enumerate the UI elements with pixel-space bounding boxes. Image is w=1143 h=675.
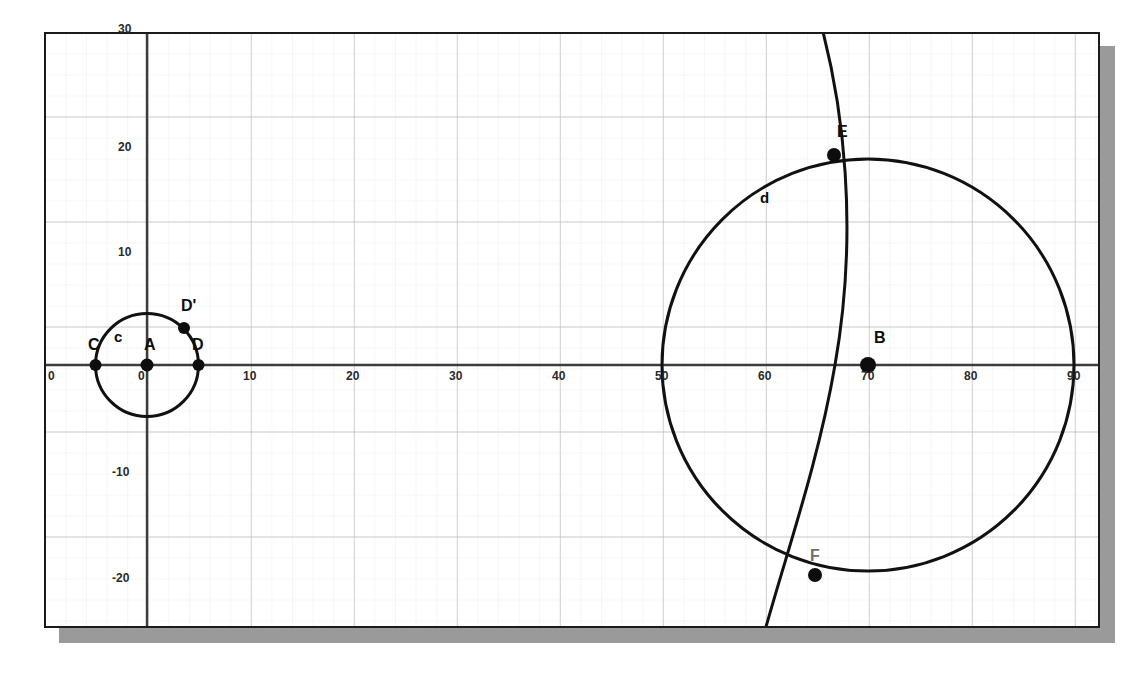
geometry-label-c[interactable]: c xyxy=(114,329,122,344)
y-tick-label-3: -10 xyxy=(112,466,129,478)
x-tick-label-9: 80 xyxy=(964,370,977,382)
x-tick-label-4: 30 xyxy=(449,370,462,382)
x-tick-label-8: 70 xyxy=(861,370,874,382)
point-c[interactable] xyxy=(90,359,102,371)
x-tick-label-10: 90 xyxy=(1067,370,1080,382)
y-tick-label-1: 20 xyxy=(118,141,131,153)
grid-layer xyxy=(46,34,1098,626)
point-f[interactable] xyxy=(808,568,822,582)
plot-panel[interactable] xyxy=(44,32,1100,628)
geometry-label-d[interactable]: d xyxy=(760,190,769,205)
geometry-label-f[interactable]: F xyxy=(810,548,820,564)
geometry-label-d[interactable]: D xyxy=(192,337,204,353)
x-tick-label-6: 50 xyxy=(655,370,668,382)
geometry-label-d-prime[interactable]: D' xyxy=(181,298,196,314)
x-tick-label-7: 60 xyxy=(758,370,771,382)
plot-canvas[interactable] xyxy=(46,34,1098,626)
point-d-prime[interactable] xyxy=(178,322,190,334)
y-tick-label-0: 30 xyxy=(118,23,131,35)
geometry-label-c[interactable]: C xyxy=(88,337,100,353)
figure-root: 00102030405060708090302010-10-20 CcADD'B… xyxy=(0,0,1143,675)
x-tick-label-0: 0 xyxy=(48,370,55,382)
x-tick-label-2: 10 xyxy=(243,370,256,382)
point-d[interactable] xyxy=(193,359,205,371)
x-tick-label-5: 40 xyxy=(552,370,565,382)
geometry-label-e[interactable]: E xyxy=(837,124,848,140)
y-tick-label-2: 10 xyxy=(118,246,131,258)
x-tick-label-1: 0 xyxy=(138,370,145,382)
x-tick-label-3: 20 xyxy=(346,370,359,382)
geometry-label-b[interactable]: B xyxy=(874,330,886,346)
geometry-label-a[interactable]: A xyxy=(144,337,156,353)
point-e[interactable] xyxy=(827,148,841,162)
y-tick-label-4: -20 xyxy=(112,572,129,584)
